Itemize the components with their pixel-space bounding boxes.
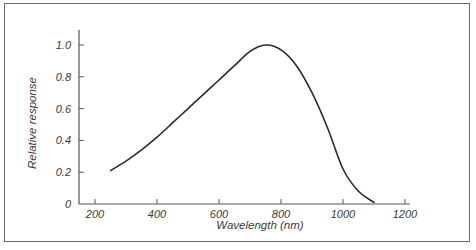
y-tick-label: 0 — [65, 198, 72, 210]
ticks: 2004006008001000120000.20.40.60.81.0 — [56, 39, 418, 220]
figure-caption-cropped — [6, 245, 366, 250]
x-tick-label: 400 — [148, 208, 167, 220]
y-tick-label: 0.6 — [56, 103, 72, 115]
response-chart: 2004006008001000120000.20.40.60.81.0 Wav… — [0, 0, 476, 250]
y-tick-label: 0.4 — [56, 134, 71, 146]
x-tick-label: 200 — [85, 208, 105, 220]
y-tick-label: 0.2 — [56, 166, 71, 178]
x-tick-label: 1000 — [331, 208, 356, 220]
response-curve — [111, 45, 375, 202]
x-tick-label: 1200 — [393, 208, 418, 220]
y-tick-label: 1.0 — [56, 39, 72, 51]
y-axis-title: Relative response — [26, 77, 38, 169]
y-tick-label: 0.8 — [56, 71, 72, 83]
x-axis-title: Wavelength (nm) — [216, 219, 304, 231]
